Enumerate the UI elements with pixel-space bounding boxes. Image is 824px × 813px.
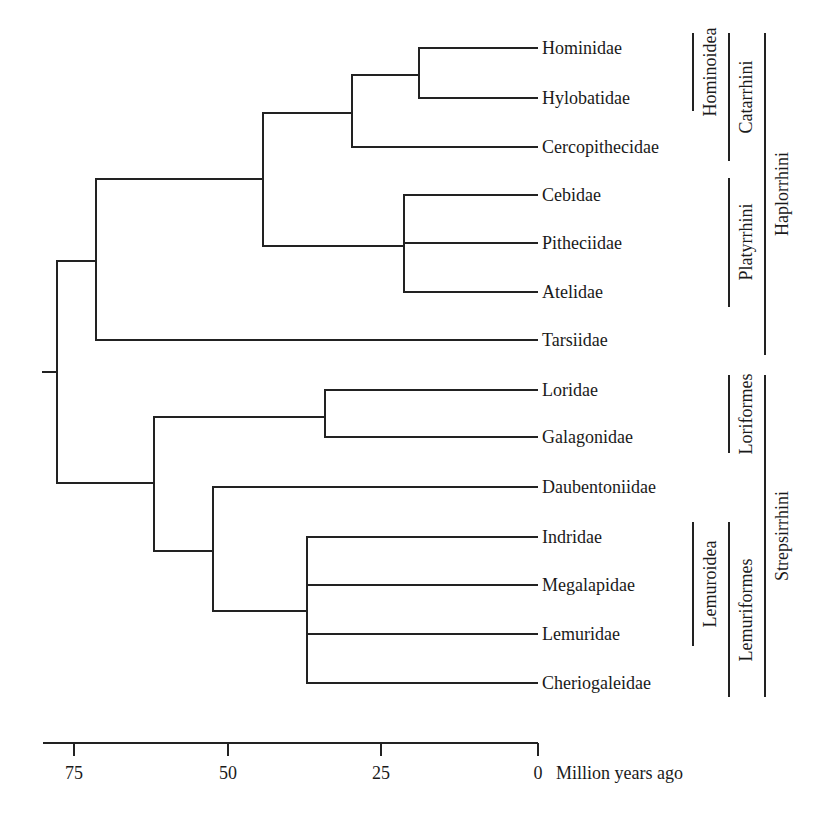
node-anthropoidea (263, 113, 404, 246)
leaf-label-hominidae: Hominidae (542, 38, 622, 58)
leaf-label-lemuridae: Lemuridae (542, 624, 620, 644)
tree-branches (42, 48, 538, 683)
clade-label-loriformes: Loriformes (736, 374, 756, 455)
node-strepsirrhini (154, 417, 325, 551)
axis-tick-label-25: 25 (372, 763, 390, 783)
phylogenetic-tree: Hominidae Hylobatidae Cercopithecidae Ce… (0, 0, 824, 813)
leaf-label-indridae: Indridae (542, 527, 602, 547)
leaf-label-galagonidae: Galagonidae (542, 427, 633, 447)
leaf-label-daubentoniidae: Daubentoniidae (542, 477, 656, 497)
leaf-label-atelidae: Atelidae (542, 282, 603, 302)
axis-tick-label-50: 50 (219, 763, 237, 783)
axis-tick-label-0: 0 (534, 763, 543, 783)
clade-label-platyrrhini: Platyrrhini (736, 204, 756, 281)
clade-label-strepsirrhini: Strepsirrhini (772, 491, 792, 581)
leaf-label-cebidae: Cebidae (542, 185, 601, 205)
leaf-label-tarsiidae: Tarsiidae (542, 330, 608, 350)
leaf-label-megalapidae: Megalapidae (542, 575, 635, 595)
node-hominoidea (419, 48, 538, 98)
leaf-label-hylobatidae: Hylobatidae (542, 88, 630, 108)
clade-label-lemuriformes: Lemuriformes (736, 559, 756, 662)
leaf-label-cercopithecidae: Cercopithecidae (542, 137, 659, 157)
node-loriformes (325, 390, 538, 437)
node-haplorrhini (96, 179, 538, 340)
leaf-labels: Hominidae Hylobatidae Cercopithecidae Ce… (542, 38, 659, 693)
node-lemuroidea (307, 537, 538, 683)
axis-title: Million years ago (556, 763, 683, 783)
leaf-label-loridae: Loridae (542, 380, 598, 400)
clade-brackets: Hominoidea Catarrhini Haplorrhini Platyr… (693, 28, 792, 697)
axis-tick-label-75: 75 (65, 763, 83, 783)
clade-label-lemuroidea: Lemuroidea (700, 541, 720, 628)
clade-label-hominoidea: Hominoidea (700, 28, 720, 117)
clade-label-haplorrhini: Haplorrhini (772, 152, 792, 236)
leaf-label-cheriogaleidae: Cheriogaleidae (542, 673, 651, 693)
node-lemuriformes (213, 487, 538, 611)
time-axis: 75 50 25 0 Million years ago (43, 743, 683, 783)
node-catarrhini (352, 75, 538, 147)
clade-label-catarrhini: Catarrhini (736, 61, 756, 134)
leaf-label-pitheciidae: Pitheciidae (542, 233, 622, 253)
node-primates (57, 261, 154, 483)
